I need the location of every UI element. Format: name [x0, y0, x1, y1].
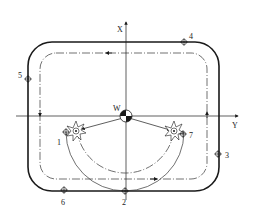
origin-label: W: [113, 104, 121, 113]
point-marker-5-icon: [24, 75, 32, 83]
point-label-5: 5: [18, 71, 22, 80]
point-label-3: 3: [225, 151, 229, 160]
point-label-2: 2: [122, 198, 126, 207]
approach-line-left: [82, 118, 123, 129]
approach-line-right: [129, 118, 170, 130]
toolpath-diagram: X Y W 1 2 3 4 5 6: [0, 0, 254, 218]
point-marker-3-icon: [214, 150, 222, 158]
point-marker-6-icon: [60, 186, 68, 194]
point-label-4: 4: [189, 32, 193, 41]
y-axis-label: Y: [232, 121, 238, 130]
point-label-7: 7: [189, 131, 193, 140]
cutter-right-icon: [165, 121, 184, 141]
lead-arc-inner: [77, 131, 174, 173]
point-marker-2-icon: [121, 187, 129, 195]
point-label-6: 6: [61, 198, 65, 207]
lead-arc-outer: [66, 132, 184, 191]
point-label-1: 1: [57, 138, 61, 147]
x-axis-label: X: [117, 25, 123, 34]
cutter-left-icon: [67, 121, 86, 141]
point-marker-4-icon: [180, 38, 188, 46]
workpiece-origin-icon: [120, 110, 132, 122]
